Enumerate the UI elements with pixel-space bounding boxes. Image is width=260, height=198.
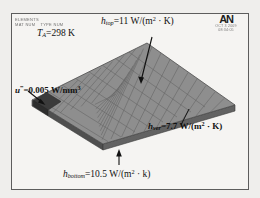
title-block-line-2: MAT NUMTYPE NUM [15,22,68,27]
ansys-logo: AN [202,14,250,24]
ansys-logo-block: AN OCT 3 2009 08:34:05 [202,14,250,32]
ansys-screenshot: ELEMENTS MAT NUMTYPE NUM AN OCT 3 2009 0… [0,0,260,198]
label-h-vertical: hver=7.7 W/(m2 · K) [148,120,222,131]
ansys-title-block: ELEMENTS MAT NUMTYPE NUM [15,17,68,27]
label-ambient-temperature: TA=298 K [37,28,75,38]
label-volumetric-heat-generation: u‴=0.005 W/mm3 [15,84,81,95]
plot-frame [11,13,249,190]
time-stamp-line: 08:34:05 [202,28,250,32]
label-h-top: htop=11 W/(m2 · K) [101,15,174,26]
label-h-bottom: hbottom=10.5 W/(m2 · k) [63,168,150,179]
